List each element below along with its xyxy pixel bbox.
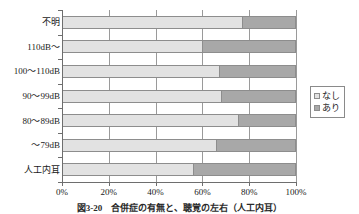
y-axis-label: 100～110dB	[0, 66, 60, 76]
y-axis-label: 110dB～	[0, 42, 60, 52]
bar-segment-nashi	[62, 16, 242, 29]
y-axis-label: ～79dB	[0, 140, 60, 150]
legend-label: あり	[322, 103, 340, 113]
x-axis-tick	[249, 182, 250, 186]
plot-area	[62, 10, 296, 182]
legend-box: なしあり	[310, 86, 345, 118]
figure-container: 不明110dB～100～110dB90～99dB80～89dB～79dB人工内耳…	[0, 0, 359, 214]
bar-row	[62, 40, 296, 53]
legend-swatch-icon	[314, 93, 320, 99]
bar-segment-ari	[242, 16, 296, 29]
x-axis-label: 0%	[39, 187, 85, 197]
bar-row	[62, 163, 296, 176]
bar-segment-nashi	[62, 65, 219, 78]
y-axis-tick	[58, 84, 62, 85]
bar-row	[62, 114, 296, 127]
legend-label: なし	[322, 91, 340, 101]
y-axis-label: 90～99dB	[0, 91, 60, 101]
bar-row	[62, 65, 296, 78]
x-axis-line	[62, 182, 296, 183]
x-axis-label: 80%	[226, 187, 272, 197]
y-axis-tick	[58, 108, 62, 109]
x-axis-tick	[109, 182, 110, 186]
x-axis-tick	[62, 182, 63, 186]
bar-row	[62, 90, 296, 103]
x-axis-label: 40%	[133, 187, 179, 197]
legend-item[interactable]: なし	[314, 90, 340, 102]
bar-segment-ari	[216, 139, 296, 152]
y-axis-tick	[58, 133, 62, 134]
bar-segment-ari	[219, 65, 296, 78]
y-axis-label: 80～89dB	[0, 116, 60, 126]
bar-segment-nashi	[62, 114, 238, 127]
bar-segment-ari	[202, 40, 296, 53]
x-axis-tick	[296, 182, 297, 186]
x-axis-label: 100%	[273, 187, 319, 197]
bar-segment-ari	[238, 114, 297, 127]
bar-segment-nashi	[62, 90, 221, 103]
bar-segment-ari	[193, 163, 296, 176]
y-axis-label: 人工内耳	[0, 165, 60, 175]
bar-row	[62, 16, 296, 29]
y-axis-tick	[58, 10, 62, 11]
y-axis-tick	[58, 157, 62, 158]
figure-caption: 図3-20 合併症の有無と、聴覚の左右（人工内耳）	[0, 203, 359, 214]
bar-segment-ari	[221, 90, 296, 103]
y-axis-label: 不明	[0, 17, 60, 27]
y-axis-line	[62, 10, 63, 182]
x-axis-tick	[156, 182, 157, 186]
bar-segment-nashi	[62, 163, 193, 176]
x-axis-label: 20%	[86, 187, 132, 197]
legend-swatch-icon	[314, 105, 320, 111]
y-axis-tick	[58, 59, 62, 60]
bar-segment-nashi	[62, 40, 202, 53]
bar-row	[62, 139, 296, 152]
gridline-100pct	[296, 10, 297, 182]
bar-series-group	[62, 10, 296, 182]
y-axis-tick	[58, 35, 62, 36]
bar-segment-nashi	[62, 139, 216, 152]
x-axis-tick	[202, 182, 203, 186]
x-axis-label: 60%	[179, 187, 225, 197]
legend-item[interactable]: あり	[314, 102, 340, 114]
